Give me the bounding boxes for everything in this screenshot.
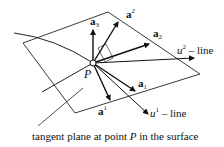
u2-curve xyxy=(14,33,93,63)
point-p-label: P xyxy=(83,67,92,81)
u2-line-label: u2 – line xyxy=(177,43,214,56)
a2-label: a2 xyxy=(153,27,163,41)
a3-label: a3 xyxy=(90,15,100,29)
tangent-plane-diagram: P a3 a2 a2 a1 a1 u2 – line u1 – line tan… xyxy=(0,0,224,147)
a1-label: a1 xyxy=(138,77,148,91)
point-p-marker xyxy=(90,60,96,66)
caption: tangent plane at point P in the surface xyxy=(32,130,199,142)
a-sup-2-label: a2 xyxy=(126,7,136,20)
u1-line-label: u1 – line xyxy=(150,106,187,119)
a-sup-1-label: a1 xyxy=(98,104,108,117)
